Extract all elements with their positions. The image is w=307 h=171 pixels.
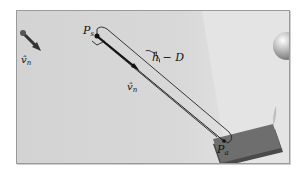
scene: v̂n Ps v̂n h − D Pa bbox=[17, 11, 289, 163]
diagram-frame: v̂n Ps v̂n h − D Pa bbox=[16, 10, 290, 164]
ps-point bbox=[95, 34, 100, 39]
hd-label: h − D bbox=[152, 51, 184, 64]
